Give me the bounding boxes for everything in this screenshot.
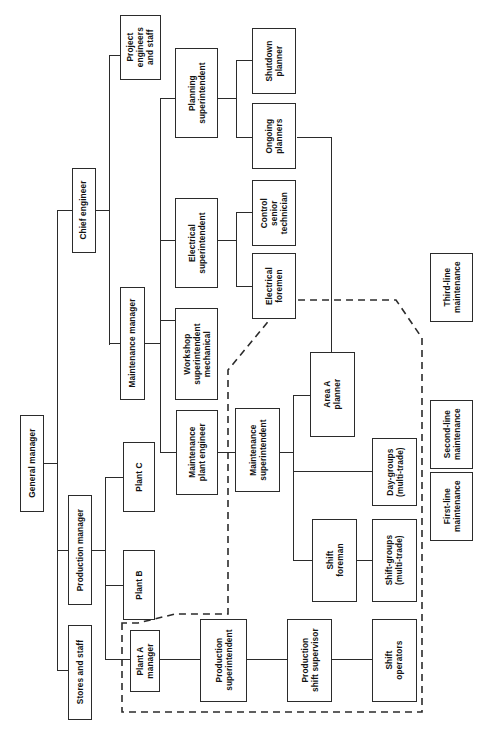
node-planning-superintendent[interactable]: Planning superintendent [175,48,218,138]
node-plant-a-manager[interactable]: Plant A manager [130,630,160,692]
edge-gm-spine [57,210,58,670]
legend-label: Third-line maintenance [441,262,461,314]
edge-electrical-spine [236,212,237,287]
node-control-senior-technician[interactable]: Control senior technician [252,180,296,246]
edge-plantengineer-superintendent [218,452,235,453]
edge-ongoing-stub [297,137,332,138]
node-workshop-superintendent-mechanical[interactable]: Workshop superintendent mechanical [175,308,218,400]
node-label: Ongoing planners [264,118,284,153]
edge-planning-stub [218,98,237,99]
edge-planning-ongoing [236,137,252,138]
node-label: Shift operators [384,641,404,680]
edge-maintmgr-electrical [160,240,175,241]
edge-maintsupt-areaa [293,395,310,396]
legend-label: First-line maintenance [441,481,461,533]
node-maintenance-plant-engineer[interactable]: Maintenance plant engineer [176,410,218,495]
node-plant-c[interactable]: Plant C [123,442,155,512]
node-label: Control senior technician [259,192,289,234]
edge-shiftforeman-shiftgroups [357,560,372,561]
edge-planta-prodsupt [160,659,200,660]
node-label: Planning superintendent [186,62,206,123]
edge-maintmgr-plantengineer [160,452,176,453]
node-electrical-superintendent[interactable]: Electrical superintendent [175,198,218,288]
edge-maintsupt-shiftforeman [293,560,312,561]
node-label: Chief engineer [79,181,89,240]
node-chief-engineer[interactable]: Chief engineer [72,168,96,253]
node-label: Plant B [134,570,144,599]
node-production-shift-supervisor[interactable]: Production shift supervisor [287,619,332,702]
node-maintenance-manager[interactable]: Maintenance manager [120,287,145,400]
node-production-superintendent[interactable]: Production superintendent [200,619,247,702]
edge-prodmgr-stub [92,550,106,551]
node-label: General manager [27,429,37,498]
edge-gm-chief [57,210,72,211]
node-shift-foreman[interactable]: Shift foreman [312,519,357,602]
edge-electrical-stub [218,240,237,241]
legend-first-line-maintenance: First-line maintenance [430,472,473,541]
node-label: Electrical superintendent [186,212,206,273]
node-label: Production superintendent [213,630,233,691]
edge-prodmgr-planta [105,659,130,660]
edge-maintmgr-spine [160,98,161,453]
node-project-engineers-and-staff[interactable]: Project engineers and staff [120,15,161,80]
node-label: Shutdown planner [264,41,284,82]
edge-prodmgr-spine [105,477,106,660]
node-label: Stores and staff [75,640,85,704]
edge-planning-spine [236,60,237,138]
node-day-groups[interactable]: Day-groups (multi-trade) [372,438,417,506]
legend-label: Second-line maintenance [441,409,461,461]
legend-second-line-maintenance: Second-line maintenance [430,400,473,469]
node-area-a-planner[interactable]: Area A planner [310,352,355,437]
node-general-manager[interactable]: General manager [20,415,44,512]
node-label: Production shift supervisor [299,629,319,693]
edge-maintmgr-workshop [160,320,175,321]
edge-maintsupt-daygroups [293,471,372,472]
node-ongoing-planners[interactable]: Ongoing planners [252,103,296,169]
edge-shiftsup-shiftops [332,659,372,660]
edge-chief-spine [109,55,110,345]
node-shift-groups[interactable]: Shift-groups (multi-trade) [372,519,417,602]
node-plant-b[interactable]: Plant B [123,550,155,620]
edge-electrical-control [236,212,252,213]
node-production-manager[interactable]: Production manager [68,495,92,605]
node-label: Shift foreman [324,544,344,577]
node-maintenance-superintendent[interactable]: Maintenance superintendent [235,408,280,492]
node-label: Plant C [134,462,144,491]
edge-chief-projeng [109,55,120,56]
node-shift-operators[interactable]: Shift operators [372,619,417,702]
org-chart: General manager Chief engineer Productio… [0,0,485,755]
edge-maintmgr-stub [145,343,161,344]
node-label: Workshop superintendent mechanical [181,323,211,384]
node-label: Electrical foremen [264,267,284,305]
edge-planning-shutdown [236,60,252,61]
edge-maintsupt-spine [293,395,294,560]
node-label: Production manager [75,509,85,591]
edge-ongoing-to-areaa [331,137,332,353]
edge-electrical-foremen [236,286,252,287]
node-label: Maintenance manager [127,299,137,388]
edge-prodmgr-plantc [105,477,123,478]
node-shutdown-planner[interactable]: Shutdown planner [252,28,296,94]
node-label: Maintenance plant engineer [187,423,207,481]
edge-gm-stores [57,670,68,671]
node-label: Day-groups (multi-trade) [384,447,404,497]
node-stores-and-staff[interactable]: Stores and staff [68,625,92,720]
node-label: Project engineers and staff [125,27,155,67]
edge-chief-stub [96,210,110,211]
edge-chief-maintmgr [109,343,120,344]
edge-prodsupt-shiftsup [247,659,287,660]
legend-third-line-maintenance: Third-line maintenance [430,253,473,322]
edge-prodmgr-plantb [105,585,123,586]
edge-maintmgr-planning [160,98,175,99]
node-electrical-foremen[interactable]: Electrical foremen [252,253,296,319]
edge-gm-stub [44,463,58,464]
edge-maintsupt-stub [280,452,294,453]
node-label: Maintenance superintendent [247,419,267,480]
node-label: Shift-groups (multi-trade) [384,535,404,586]
node-label: Area A planner [322,379,342,410]
edge-gm-prodmgr [57,550,68,551]
node-label: Plant A manager [135,643,155,678]
